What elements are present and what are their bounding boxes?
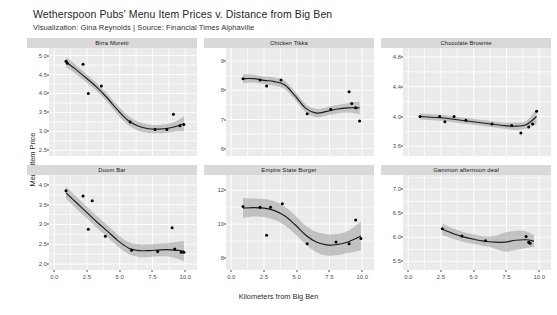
plot-panel [226, 175, 374, 270]
data-point [182, 123, 185, 126]
data-point [527, 125, 530, 128]
data-point [441, 227, 444, 230]
y-tick-label: 7.0 [393, 186, 401, 192]
x-tick-mark [473, 270, 474, 272]
facet-grid: Birra Moretti2.53.03.54.04.55.00.02.55.0… [27, 38, 551, 283]
y-tick-label: 4.0 [39, 182, 47, 188]
y-tick-label: 4.8 [393, 54, 401, 60]
facet-panel: Chicken Tikka67890.02.55.07.510.0 [204, 38, 374, 156]
plot-canvas [226, 48, 374, 156]
x-tick-mark [296, 270, 297, 272]
facet-panel: Birra Moretti2.53.03.54.04.55.00.02.55.0… [27, 38, 197, 156]
x-tick-label: 10.0 [533, 274, 544, 280]
x-tick-mark [86, 270, 87, 272]
x-tick-mark [119, 270, 120, 272]
data-point [348, 90, 351, 93]
x-tick-mark [539, 270, 540, 272]
data-point [359, 237, 362, 240]
x-axis-title: Kilometers from Big Ben [0, 292, 557, 301]
data-point [280, 79, 283, 82]
data-point [259, 206, 262, 209]
data-point [180, 251, 183, 254]
data-point [130, 249, 133, 252]
data-point [281, 202, 284, 205]
facet-strip-label: Birra Moretti [27, 38, 197, 48]
data-point [156, 250, 159, 253]
x-axis: 0.02.55.07.510.0 [403, 270, 551, 283]
y-axis: 6789 [204, 48, 226, 156]
x-tick-label: 5.0 [470, 274, 478, 280]
data-point [335, 241, 338, 244]
x-tick-label: 0.0 [227, 274, 235, 280]
data-point [348, 242, 351, 245]
y-tick-label: 3.5 [39, 202, 47, 208]
data-point [329, 108, 332, 111]
data-point [354, 218, 357, 221]
facet-panel: Gammon afternoon deal5.56.06.57.00.02.55… [381, 165, 551, 283]
x-tick-mark [231, 270, 232, 272]
y-axis: 81012 [204, 175, 226, 270]
x-tick-label: 10.0 [356, 274, 367, 280]
y-tick-label: 2.5 [39, 241, 47, 247]
data-point [87, 92, 90, 95]
data-point [259, 79, 262, 82]
data-point [165, 128, 168, 131]
data-point [306, 112, 309, 115]
y-tick-label: 3.0 [39, 221, 47, 227]
page-title: Wetherspoon Pubs' Menu Item Prices v. Di… [33, 8, 332, 20]
data-point [171, 226, 174, 229]
plot-canvas [49, 175, 197, 270]
y-axis: 5.56.06.57.0 [381, 175, 403, 270]
y-tick-label: 3.5 [39, 109, 47, 115]
y-tick-label: 5.5 [393, 258, 401, 264]
x-tick-mark [440, 270, 441, 272]
data-point [438, 115, 441, 118]
data-point [173, 248, 176, 251]
x-tick-label: 7.5 [148, 274, 156, 280]
facet-panel: Chocolate Brownie3.64.04.44.80.02.55.07.… [381, 38, 551, 156]
facet-strip-label: Chocolate Brownie [381, 38, 551, 48]
plot-canvas [49, 48, 197, 156]
data-point [100, 84, 103, 87]
x-tick-label: 7.5 [325, 274, 333, 280]
data-point [510, 124, 513, 127]
y-tick-label: 5.0 [39, 53, 47, 59]
plot-panel [49, 48, 197, 156]
data-point [453, 115, 456, 118]
x-axis: 0.02.55.07.510.0 [49, 270, 197, 283]
data-point [87, 228, 90, 231]
plot-panel [403, 175, 551, 270]
confidence-ribbon [420, 109, 537, 130]
x-tick-mark [408, 270, 409, 272]
facet-strip-label: Empire State Burger [204, 165, 374, 175]
plot-panel [226, 48, 374, 156]
plot-panel [403, 48, 551, 156]
facet-panel: Empire State Burger810120.02.55.07.510.0 [204, 165, 374, 283]
plot-canvas [403, 48, 551, 156]
x-tick-mark [185, 270, 186, 272]
data-point [178, 124, 181, 127]
x-tick-label: 2.5 [83, 274, 91, 280]
data-point [306, 242, 309, 245]
y-tick-label: 4.5 [39, 72, 47, 78]
chart-root: Wetherspoon Pubs' Menu Item Prices v. Di… [0, 0, 557, 315]
data-point [531, 122, 534, 125]
data-point [82, 194, 85, 197]
y-tick-label: 3.6 [393, 143, 401, 149]
data-point [491, 122, 494, 125]
y-axis: 2.02.53.03.54.0 [27, 175, 49, 270]
x-axis: 0.02.55.07.510.0 [226, 270, 374, 283]
data-point [82, 63, 85, 66]
plot-canvas [226, 175, 374, 270]
data-point [269, 206, 272, 209]
confidence-ribbon [442, 223, 534, 251]
y-tick-label: 4.4 [393, 84, 401, 90]
facet-strip-label: Doom Bar [27, 165, 197, 175]
data-point [419, 115, 422, 118]
x-tick-label: 2.5 [437, 274, 445, 280]
x-tick-label: 5.0 [293, 274, 301, 280]
data-point [460, 234, 463, 237]
x-tick-mark [263, 270, 264, 272]
x-tick-label: 0.0 [50, 274, 58, 280]
facet-strip-label: Gammon afternoon deal [381, 165, 551, 175]
